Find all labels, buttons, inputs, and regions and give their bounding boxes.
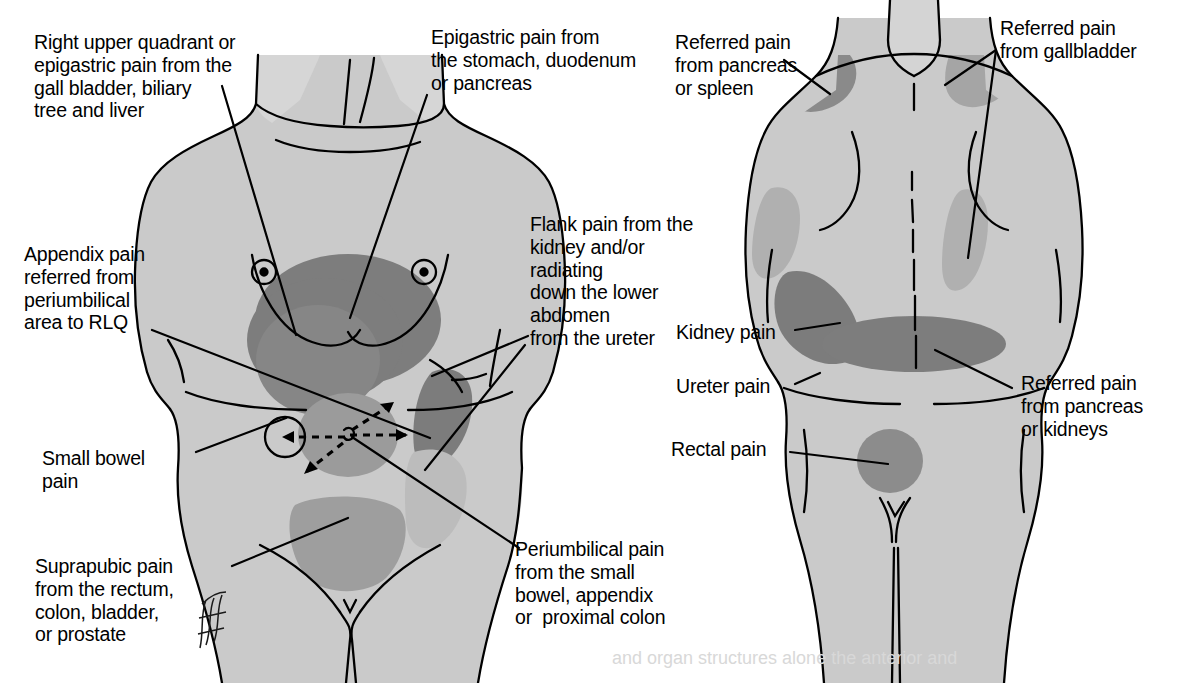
cutoff-caption-text: and organ structures alone the anterior … xyxy=(612,648,957,669)
label-small-bowel-pain: Small bowel pain xyxy=(42,447,145,493)
anterior-figure xyxy=(135,55,565,683)
label-periumbilical-pain: Periumbilical pain from the small bowel,… xyxy=(515,538,665,629)
label-epigastric-pain: Epigastric pain from the stomach, duoden… xyxy=(431,26,636,94)
label-right-upper-quadrant-pain: Right upper quadrant or epigastric pain … xyxy=(34,31,235,122)
label-referred-pain-pancreas-spleen: Referred pain from pancreas or spleen xyxy=(675,31,797,99)
label-ureter-pain: Ureter pain xyxy=(676,375,770,398)
referred-pain-diagram: Right upper quadrant or epigastric pain … xyxy=(0,0,1181,683)
label-kidney-pain: Kidney pain xyxy=(676,321,776,344)
posterior-figure xyxy=(745,0,1082,683)
label-referred-pain-gallbladder: Referred pain from gallbladder xyxy=(1000,17,1137,63)
label-suprapubic-pain: Suprapubic pain from the rectum, colon, … xyxy=(35,555,174,646)
label-appendix-pain: Appendix pain referred from periumbilica… xyxy=(24,243,145,334)
label-rectal-pain: Rectal pain xyxy=(671,438,766,461)
label-referred-pain-pancreas-kidneys: Referred pain from pancreas or kidneys xyxy=(1021,372,1143,440)
label-flank-pain: Flank pain from the kidney and/or radiat… xyxy=(530,213,693,350)
